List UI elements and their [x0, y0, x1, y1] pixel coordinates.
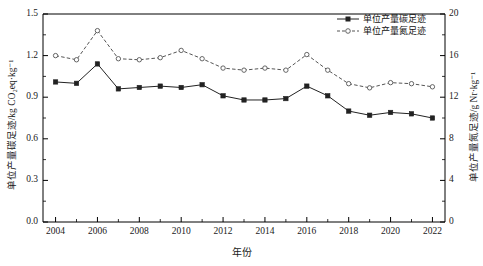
x-tick-label: 2012 — [206, 226, 240, 236]
x-tick-label: 2014 — [248, 226, 282, 236]
data-point — [95, 28, 99, 32]
y-left-tick-label: 0.3 — [12, 174, 38, 184]
data-point — [137, 58, 141, 62]
data-point — [367, 113, 371, 117]
y-left-tick-label: 0.6 — [12, 133, 38, 143]
data-point — [242, 68, 246, 72]
y-left-tick-label: 1.5 — [12, 8, 38, 18]
data-point — [430, 85, 434, 89]
x-tick-label: 2010 — [164, 226, 198, 236]
data-point — [305, 84, 309, 88]
x-tick-label: 2008 — [122, 226, 156, 236]
data-point — [367, 86, 371, 90]
data-point — [263, 66, 267, 70]
data-point — [179, 48, 183, 52]
y-right-tick-label: 20 — [449, 8, 475, 18]
data-point — [326, 68, 330, 72]
data-point — [346, 109, 350, 113]
data-point — [430, 116, 434, 120]
data-point — [221, 94, 225, 98]
data-point — [116, 87, 120, 91]
y-right-tick-label: 4 — [449, 174, 475, 184]
x-tick-label: 2006 — [80, 226, 114, 236]
legend-label-carbon: 单位产量碳足迹 — [363, 13, 426, 25]
data-point — [74, 81, 78, 85]
y-right-tick-label: 12 — [449, 91, 475, 101]
data-point — [200, 57, 204, 61]
data-point — [284, 96, 288, 100]
axis-ticks — [43, 14, 445, 222]
data-point — [284, 68, 288, 72]
data-point — [74, 58, 78, 62]
legend-item-nitrogen: 单位产量氮足迹 — [336, 25, 426, 37]
chart-legend: 单位产量碳足迹 单位产量氮足迹 — [336, 13, 426, 37]
data-point — [388, 80, 392, 84]
x-tick-label: 2016 — [290, 226, 324, 236]
y-right-tick-label: 8 — [449, 133, 475, 143]
data-point — [95, 62, 99, 66]
data-point — [200, 83, 204, 87]
y-right-tick-label: 16 — [449, 50, 475, 60]
x-axis-title: 年份 — [0, 244, 483, 259]
legend-swatch-solid-line — [336, 13, 360, 25]
data-point — [346, 81, 350, 85]
data-point — [158, 55, 162, 59]
x-tick-label: 2022 — [415, 226, 449, 236]
x-tick-label: 2018 — [332, 226, 366, 236]
data-point — [388, 110, 392, 114]
data-point — [409, 81, 413, 85]
data-point — [137, 85, 141, 89]
chart-figure: 单位产量碳足迹/kg CO₂eq·kg⁻¹ 单位产量氮足迹/g Nr·kg⁻¹ … — [0, 0, 483, 266]
data-point — [326, 94, 330, 98]
data-series — [53, 28, 434, 120]
data-point — [305, 52, 309, 56]
data-point — [158, 84, 162, 88]
legend-label-nitrogen: 单位产量氮足迹 — [363, 25, 426, 37]
data-point — [221, 66, 225, 70]
x-tick-label: 2020 — [374, 226, 408, 236]
y-right-tick-label: 0 — [449, 216, 475, 226]
y-left-tick-label: 1.2 — [12, 50, 38, 60]
axes-frame — [43, 14, 445, 222]
data-point — [179, 85, 183, 89]
data-point — [53, 53, 57, 57]
data-point — [53, 80, 57, 84]
legend-swatch-dashed-line — [336, 25, 360, 37]
data-point — [242, 98, 246, 102]
y-left-tick-label: 0.0 — [12, 216, 38, 226]
data-point — [409, 112, 413, 116]
x-tick-label: 2004 — [39, 226, 73, 236]
legend-item-carbon: 单位产量碳足迹 — [336, 13, 426, 25]
data-point — [263, 98, 267, 102]
data-point — [116, 57, 120, 61]
y-left-tick-label: 0.9 — [12, 91, 38, 101]
series-line-nitrogen — [56, 31, 433, 88]
